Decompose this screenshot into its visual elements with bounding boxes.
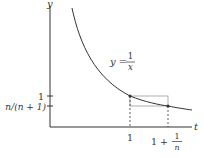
point-1n-nn1 <box>167 105 170 108</box>
x-tick-label-1: 1 <box>127 132 133 143</box>
equation-numerator: 1 <box>128 51 133 61</box>
point-1-1 <box>129 95 132 98</box>
equation-denominator: x <box>128 62 133 72</box>
y-tick-label-1: 1 <box>38 91 44 102</box>
x-tick-frac-num: 1 <box>174 132 179 141</box>
x-axis-label: t <box>194 121 199 132</box>
y-tick-label-n-over-n-plus-1: n/(n + 1) <box>5 102 46 112</box>
area-rectangle <box>130 96 168 106</box>
x-tick-label-1-plus: 1 + <box>151 136 168 147</box>
x-tick-frac-den: n <box>174 143 179 152</box>
y-axis-label: y <box>46 0 53 9</box>
hyperbola-diagram: y t 1 n/(n + 1) 1 1 + 1 n y = 1 x <box>0 0 204 158</box>
equation-lhs: y = <box>109 56 127 67</box>
